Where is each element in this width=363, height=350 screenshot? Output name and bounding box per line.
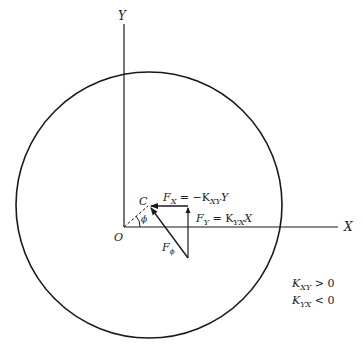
origin-label: O (114, 231, 123, 244)
angle-arc-phi (136, 216, 140, 227)
whirl-force-diagram: Y X O C ϕ FX = −KXYY FY = KYXX Fϕ KXY > … (0, 0, 363, 350)
y-axis-label: Y (118, 9, 127, 23)
fy-label: FY = KYXX (195, 212, 253, 227)
point-c-label: C (139, 195, 148, 208)
fphi-label: Fϕ (161, 241, 175, 256)
x-axis-label: X (343, 220, 353, 234)
clearance-circle (16, 72, 282, 338)
condition-kxy: KXY > 0 (291, 277, 334, 292)
fx-label: FX = −KXYY (162, 191, 230, 206)
phi-label: ϕ (141, 214, 147, 224)
condition-kyx: KYX < 0 (291, 294, 334, 309)
